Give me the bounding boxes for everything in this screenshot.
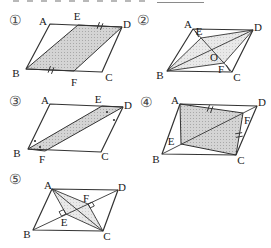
vertex-label-E: E bbox=[74, 10, 81, 22]
equal-angle-dot-mark bbox=[34, 140, 36, 142]
equal-angle-dot-mark bbox=[106, 111, 108, 113]
choice-number-3: ③ bbox=[9, 94, 22, 109]
vertex-label-E: E bbox=[95, 93, 102, 105]
vertex-label-F: F bbox=[244, 114, 250, 126]
vertex-label-F: F bbox=[39, 153, 45, 165]
vertex-label-D: D bbox=[254, 21, 262, 33]
vertex-label-F: F bbox=[218, 63, 224, 75]
vertex-label-A: A bbox=[171, 94, 179, 106]
vertex-label-C: C bbox=[233, 71, 240, 83]
parallelogram-figures-diagram: AEDBFC①AEDOFBC②AEDBFC③ADFEBC④ADFEBC⑤ bbox=[0, 0, 271, 248]
equal-angle-dot-mark bbox=[113, 119, 115, 121]
figure-3: AEDBFC③ bbox=[9, 93, 133, 165]
vertex-label-C: C bbox=[103, 230, 110, 242]
vertex-label-E: E bbox=[61, 216, 68, 228]
tick-mark bbox=[226, 65, 230, 71]
vertex-label-A: A bbox=[39, 15, 47, 27]
figure-1: AEDBFC① bbox=[9, 10, 132, 88]
vertex-label-C: C bbox=[101, 150, 108, 162]
vertex-label-C: C bbox=[105, 71, 112, 83]
vertex-label-D: D bbox=[258, 96, 266, 108]
choice-number-1: ① bbox=[9, 13, 22, 28]
choice-number-2: ② bbox=[137, 13, 150, 28]
vertex-label-O: O bbox=[210, 51, 218, 63]
vertex-label-C: C bbox=[237, 154, 244, 166]
vertex-label-B: B bbox=[156, 69, 163, 81]
choice-number-4: ④ bbox=[140, 95, 153, 110]
equal-angle-dot-mark bbox=[39, 146, 41, 148]
vertex-label-A: A bbox=[41, 94, 49, 106]
vertex-label-D: D bbox=[123, 18, 131, 30]
vertex-label-F: F bbox=[83, 192, 89, 204]
textbook-figure-page: AEDBFC①AEDOFBC②AEDBFC③ADFEBC④ADFEBC⑤ bbox=[0, 0, 271, 248]
figure-2: AEDOFBC② bbox=[137, 13, 263, 84]
choice-number-5: ⑤ bbox=[9, 172, 22, 187]
shaded-region bbox=[180, 104, 243, 155]
vertex-label-A: A bbox=[184, 18, 192, 30]
vertex-label-D: D bbox=[124, 99, 132, 111]
vertex-label-F: F bbox=[71, 76, 77, 88]
vertex-label-B: B bbox=[13, 147, 20, 159]
vertex-label-A: A bbox=[44, 179, 52, 191]
vertex-label-E: E bbox=[196, 25, 203, 37]
vertex-label-B: B bbox=[152, 153, 159, 165]
vertex-label-B: B bbox=[12, 67, 19, 79]
figure-4: ADFEBC④ bbox=[140, 94, 267, 166]
vertex-label-E: E bbox=[168, 135, 175, 147]
vertex-label-D: D bbox=[118, 181, 126, 193]
vertex-label-B: B bbox=[23, 228, 30, 240]
shaded-region bbox=[28, 106, 123, 151]
shaded-region bbox=[26, 25, 122, 71]
figure-5: ADFEBC⑤ bbox=[9, 172, 127, 243]
